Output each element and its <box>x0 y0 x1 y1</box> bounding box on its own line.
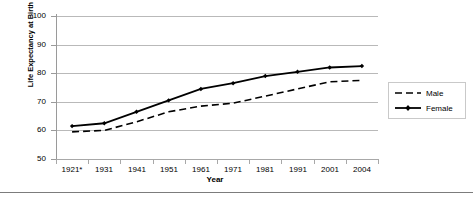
x-axis-title: Year <box>55 175 375 184</box>
footer-divider <box>0 192 473 193</box>
legend: Male Female <box>388 82 466 119</box>
data-point-marker <box>360 64 364 68</box>
legend-label-female: Female <box>426 104 453 113</box>
series-line-male <box>72 80 362 131</box>
data-point-marker <box>263 74 267 78</box>
data-point-marker <box>199 87 203 91</box>
legend-label-male: Male <box>426 89 443 98</box>
series-line-female <box>72 66 362 126</box>
data-point-marker <box>102 121 106 125</box>
legend-swatch-male-icon <box>393 86 423 100</box>
legend-swatch-female-icon <box>393 101 423 115</box>
data-point-marker <box>167 98 171 102</box>
data-point-marker <box>328 65 332 69</box>
data-point-marker <box>70 124 74 128</box>
line-chart: Life Expectancy at Birth 5060708090100 1… <box>0 0 473 200</box>
legend-item-male: Male <box>393 86 463 100</box>
data-point-marker <box>231 81 235 85</box>
legend-item-female: Female <box>393 101 463 115</box>
series-markers-female <box>70 64 364 128</box>
data-point-marker <box>134 110 138 114</box>
data-point-marker <box>295 70 299 74</box>
